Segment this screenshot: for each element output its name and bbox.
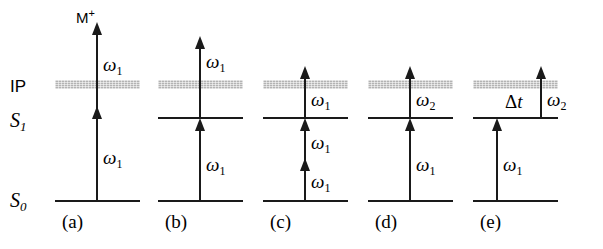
omega-glyph: ω <box>503 154 516 175</box>
panel-b-omega1-upper-arrowhead <box>195 36 205 49</box>
panel-b-caption: (b) <box>165 212 187 231</box>
energy-level-diagram: IP S1 S0 M+ ω1 ω1 (a) ω1 ω1 (b) ω1 ω1 ω1… <box>0 0 603 249</box>
s1-label-subscript: 1 <box>20 119 27 134</box>
panel-a-omega1-upper-arrowhead <box>92 22 102 35</box>
panel-d-omega1-arrowhead <box>405 118 415 131</box>
panel-d-omega1-label: ω1 <box>416 155 435 174</box>
panel-a-omega1-lower-shaft <box>96 118 98 201</box>
s1-label: S1 <box>10 110 27 130</box>
omega-subscript: 1 <box>324 99 330 113</box>
panel-e-omega2-label: ω2 <box>547 90 566 109</box>
panel-c-omega1-second-arrowhead <box>300 118 310 131</box>
panel-c-omega1-first-label: ω1 <box>311 172 330 191</box>
panel-e-ip-band <box>473 80 558 89</box>
s0-label-subscript: 0 <box>20 199 27 214</box>
panel-c-omega1-third-arrowhead <box>300 66 310 79</box>
omega-glyph: ω <box>311 132 324 153</box>
omega-subscript: 1 <box>324 142 330 156</box>
panel-a-omega1-lower-label: ω1 <box>103 148 122 167</box>
panel-b-omega1-upper-label: ω1 <box>206 52 225 71</box>
omega-glyph: ω <box>311 171 324 192</box>
omega-subscript: 1 <box>219 164 225 178</box>
panel-b-omega1-lower-arrowhead <box>195 118 205 131</box>
omega-glyph: ω <box>103 147 116 168</box>
omega-glyph: ω <box>311 89 324 110</box>
panel-e-omega1-label: ω1 <box>503 155 522 174</box>
omega-glyph: ω <box>416 154 429 175</box>
omega-subscript: 1 <box>219 61 225 75</box>
omega-glyph: ω <box>547 89 560 110</box>
panel-c-omega1-first-shaft <box>304 170 306 201</box>
panel-b-omega1-lower-shaft <box>199 130 201 201</box>
panel-e-caption: (e) <box>480 212 501 231</box>
panel-c-omega1-third-label: ω1 <box>311 90 330 109</box>
omega-glyph: ω <box>416 89 429 110</box>
panel-e-omega2-arrowhead <box>536 66 546 79</box>
s0-label-letter: S <box>10 189 20 211</box>
panel-c-omega1-third-shaft <box>304 78 306 118</box>
omega-subscript: 2 <box>560 99 566 113</box>
panel-c-omega1-second-shaft <box>304 130 306 168</box>
omega-subscript: 1 <box>116 157 122 171</box>
panel-d-omega2-arrowhead <box>405 66 415 79</box>
panel-d-omega1-shaft <box>409 130 411 201</box>
panel-e-s1-level <box>473 117 558 119</box>
panel-a-caption: (a) <box>62 212 83 231</box>
ion-product-letter: M <box>76 9 89 26</box>
panel-e-omega2-shaft <box>540 78 542 118</box>
omega-glyph: ω <box>206 51 219 72</box>
panel-a-omega1-upper-shaft <box>96 30 98 120</box>
panel-b-omega1-lower-label: ω1 <box>206 155 225 174</box>
omega-subscript: 1 <box>516 164 522 178</box>
omega-glyph: ω <box>206 154 219 175</box>
ip-label: IP <box>10 78 26 95</box>
panel-d-caption: (d) <box>375 212 397 231</box>
panel-d-omega2-shaft <box>409 78 411 118</box>
omega-subscript: 2 <box>429 99 435 113</box>
panel-c-omega1-second-label: ω1 <box>311 133 330 152</box>
panel-b-omega1-upper-shaft <box>199 48 201 118</box>
omega-subscript: 1 <box>324 181 330 195</box>
panel-e-omega1-arrowhead <box>492 118 502 131</box>
delta-glyph: Δ <box>505 91 517 112</box>
panel-a-omega1-upper-label: ω1 <box>103 55 122 74</box>
panel-e-omega1-shaft <box>496 130 498 201</box>
omega-subscript: 1 <box>429 164 435 178</box>
panel-c-caption: (c) <box>270 212 291 231</box>
s1-label-letter: S <box>10 109 20 131</box>
omega-subscript: 1 <box>116 64 122 78</box>
panel-e-delay-label: Δt <box>505 92 523 111</box>
ion-product-charge: + <box>89 7 95 19</box>
panel-e-s0-level <box>473 200 558 202</box>
delay-time-glyph: t <box>517 91 522 112</box>
s0-label: S0 <box>10 190 27 210</box>
omega-glyph: ω <box>103 54 116 75</box>
panel-d-omega2-label: ω2 <box>416 90 435 109</box>
